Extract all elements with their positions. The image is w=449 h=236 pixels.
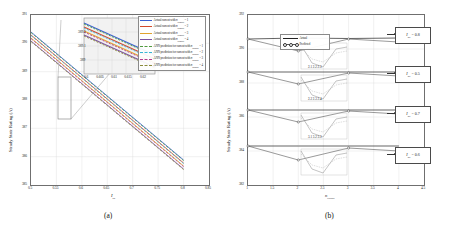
callout-isat-0: Isat = 0.8: [395, 27, 431, 44]
legend-b-label-actual: Actual: [300, 36, 308, 40]
callout-text-2: Isat = 0.7: [406, 111, 419, 118]
inset-ytick-2: 389: [80, 58, 85, 62]
legend-swatch-1: [140, 26, 152, 27]
xtick-b-0: 1: [246, 186, 248, 190]
inset-xtick-3: 0.615: [124, 75, 132, 79]
xtick-a-2: 0.6: [79, 186, 83, 190]
xtick-b-1: 1.5: [270, 186, 274, 190]
panel-a: 389.2 389.1 389 0.6 0.605 0.61 0.615 0.6…: [0, 0, 225, 236]
xtick-a-1: 0.55: [52, 186, 58, 190]
ytick-b-4: 384: [229, 148, 244, 152]
ytick-a-1: 390: [12, 40, 27, 44]
inset-label-b-2: 3.1 3.2 3.3: [308, 135, 322, 139]
legend-label-3: Actual current with nresistor = 4: [154, 37, 189, 43]
legend-b-item-1: Predicted: [283, 41, 330, 47]
legend-label-6: ANN prediction for current with nresisto…: [154, 56, 203, 62]
ytick-a-2: 389: [12, 69, 27, 73]
legend-a: Actual current with nresistor = 1 Actual…: [138, 16, 206, 71]
xtick-b-6: 4: [397, 186, 399, 190]
legend-label-5: ANN prediction for current with nresisto…: [154, 50, 203, 56]
ytick-a-6: 385: [12, 182, 27, 186]
y-axis-title-b: Steady State Rating (A): [226, 108, 231, 152]
panel-b: 2.1 2.2 2.3 2.2 2.3 2.4 3.1 3.2 3.3 Actu…: [225, 0, 449, 236]
ytick-a-3: 388: [12, 97, 27, 101]
inset-xtick-2: 0.61: [111, 75, 117, 79]
legend-b-swatch-predicted: [283, 44, 298, 45]
callout-arrow-0: [387, 34, 395, 35]
inset-xtick-0: 0.6: [84, 75, 88, 79]
callout-arrow-2: [387, 113, 395, 114]
xtick-b-5: 3.5: [371, 186, 375, 190]
legend-b-swatch-actual: [283, 38, 298, 39]
xtick-b-3: 2.5: [320, 186, 324, 190]
legend-swatch-7: [140, 65, 152, 66]
callout-isat-2: Isat = 0.7: [395, 106, 431, 123]
inset-label-b-1: 2.2 2.3 2.4: [308, 97, 322, 101]
caption-a: (a): [104, 211, 112, 220]
inset-ytick-1: 389.1: [78, 44, 86, 48]
ytick-b-5: 382: [229, 182, 244, 186]
legend-item-2: Actual current with nresistor = 3: [140, 30, 205, 36]
callout-isat-3: Isat = 0.6: [395, 147, 431, 164]
callout-text-0: Isat = 0.8: [406, 32, 419, 39]
legend-swatch-3: [140, 39, 152, 40]
legend-label-4: ANN prediction for current with nresisto…: [154, 44, 203, 50]
callout-isat-1: Isat = 0.5: [395, 66, 431, 83]
ytick-b-1: 390: [229, 46, 244, 50]
ytick-b-0: 392: [229, 12, 244, 16]
caption-b: (b): [325, 211, 334, 220]
xtick-b-2: 2: [296, 186, 298, 190]
ytick-a-5: 386: [12, 154, 27, 158]
ytick-a-4: 387: [12, 125, 27, 129]
xtick-a-5: 0.75: [154, 186, 160, 190]
inset-xtick-4: 0.62: [140, 75, 146, 79]
xtick-a-4: 0.7: [130, 186, 134, 190]
legend-label-7: ANN prediction for current with nresisto…: [154, 63, 203, 69]
callout-text-1: Isat = 0.5: [406, 71, 419, 78]
xtick-a-0: 0.5: [28, 186, 32, 190]
legend-swatch-5: [140, 52, 152, 53]
legend-item-3: Actual current with nresistor = 4: [140, 37, 205, 43]
legend-b-label-predicted: Predicted: [300, 42, 311, 46]
y-axis-title-a: Steady State Rating (A): [8, 108, 13, 152]
xtick-b-7: 4.5: [421, 186, 425, 190]
legend-item-4: ANN prediction for current with nresisto…: [140, 43, 205, 49]
legend-swatch-4: [140, 46, 152, 47]
xtick-b-4: 3: [347, 186, 349, 190]
legend-item-5: ANN prediction for current with nresisto…: [140, 50, 205, 56]
xtick-a-3: 0.65: [103, 186, 109, 190]
ytick-b-2: 388: [229, 80, 244, 84]
legend-item-0: Actual current with nresistor = 1: [140, 17, 205, 23]
figure-container: 389.2 389.1 389 0.6 0.605 0.61 0.615 0.6…: [0, 0, 449, 236]
legend-swatch-6: [140, 59, 152, 60]
legend-item-7: ANN prediction for current with nresisto…: [140, 63, 205, 69]
x-axis-title-a: Isat: [111, 193, 115, 200]
ytick-b-3: 386: [229, 114, 244, 118]
inset-label-b-0: 2.1 2.2 2.3: [308, 65, 322, 69]
legend-swatch-2: [140, 33, 152, 34]
legend-item-1: Actual current with nresistor = 2: [140, 24, 205, 30]
ytick-a-0: 391: [12, 12, 27, 16]
legend-label-0: Actual current with nresistor = 1: [154, 18, 189, 24]
legend-label-1: Actual current with nresistor = 2: [154, 24, 189, 30]
legend-label-2: Actual current with nresistor = 3: [154, 31, 189, 37]
inset-ytick-0: 389.2: [78, 30, 86, 34]
xtick-a-6: 0.8: [180, 186, 184, 190]
xtick-a-7: 0.85: [205, 186, 211, 190]
legend-swatch-0: [140, 20, 152, 21]
legend-b: Actual Predicted: [280, 34, 330, 50]
legend-item-6: ANN prediction for current with nresisto…: [140, 56, 205, 62]
callout-text-3: Isat = 0.6: [406, 152, 419, 159]
callout-arrow-3: [387, 154, 395, 155]
inset-xtick-1: 0.605: [96, 75, 104, 79]
callout-arrow-1: [387, 73, 395, 74]
x-axis-title-b: nresistor: [325, 193, 335, 200]
